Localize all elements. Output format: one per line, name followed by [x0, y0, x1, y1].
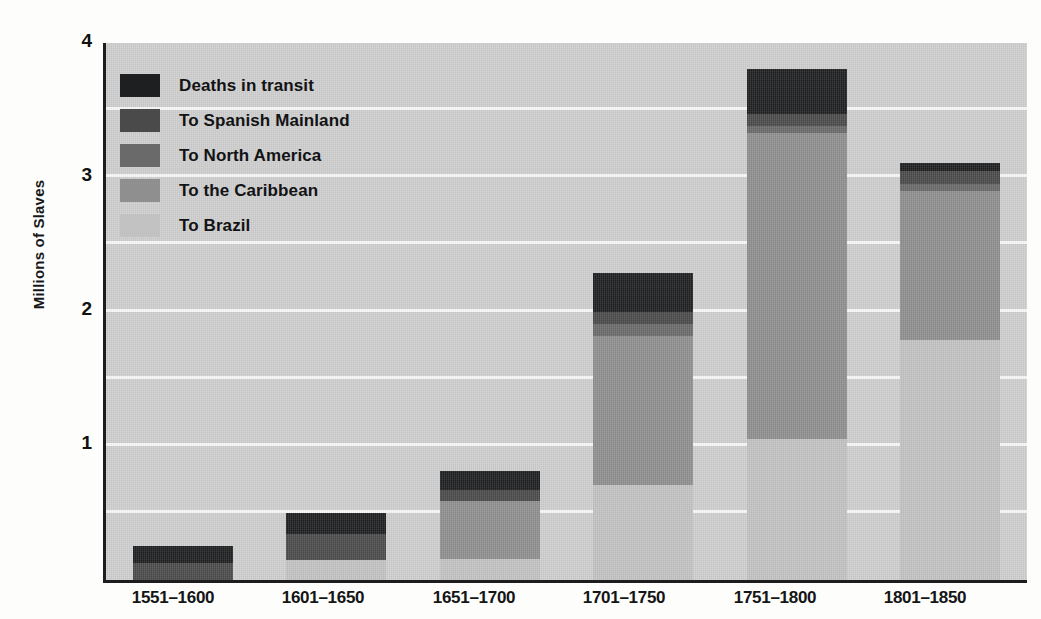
legend-swatch-icon — [120, 74, 160, 97]
x-tick-label-4: 1751–1800 — [700, 588, 850, 608]
legend-swatch-icon — [120, 214, 160, 237]
legend-item-namerica[interactable]: To North America — [120, 138, 350, 173]
x-tick-label-0: 1551–1600 — [98, 588, 248, 608]
bar-segment-spanish — [593, 312, 693, 324]
bar-segment-deaths — [593, 273, 693, 312]
y-axis-title: Millions of Slaves — [30, 125, 47, 365]
legend-item-spanish[interactable]: To Spanish Mainland — [120, 103, 350, 138]
legend-swatch-icon — [120, 144, 160, 167]
gridline — [106, 309, 1027, 312]
bar-segment-deaths — [286, 513, 386, 534]
bar-1601-1650[interactable] — [286, 513, 386, 580]
bar-segment-deaths — [440, 471, 540, 490]
bar-segment-brazil — [286, 560, 386, 580]
x-tick-label-5: 1801–1850 — [850, 588, 1000, 608]
bar-1801-1850[interactable] — [900, 163, 1000, 580]
legend-item-deaths[interactable]: Deaths in transit — [120, 68, 350, 103]
bar-segment-brazil — [440, 559, 540, 580]
chart-figure: Millions of Slaves 4 3 2 1 1551–1600 160… — [0, 0, 1041, 619]
gridline — [106, 510, 1027, 513]
bar-segment-carib — [900, 191, 1000, 340]
y-tick-label-2: 2 — [52, 298, 92, 320]
bar-1651-1700[interactable] — [440, 471, 540, 580]
bar-segment-namerica — [900, 184, 1000, 191]
bar-segment-brazil — [593, 485, 693, 580]
legend-item-label: To Spanish Mainland — [179, 111, 350, 131]
legend-item-carib[interactable]: To the Caribbean — [120, 173, 350, 208]
legend-item-label: To the Caribbean — [179, 181, 318, 201]
bar-segment-spanish — [900, 171, 1000, 184]
y-tick-label-1: 1 — [52, 432, 92, 454]
bar-segment-spanish — [440, 490, 540, 501]
bar-1751-1800[interactable] — [747, 69, 847, 580]
legend-item-brazil[interactable]: To Brazil — [120, 208, 350, 243]
bar-segment-spanish — [747, 114, 847, 126]
y-tick-label-3: 3 — [52, 164, 92, 186]
chart-legend: Deaths in transitTo Spanish MainlandTo N… — [120, 68, 350, 243]
x-tick-label-2: 1651–1700 — [399, 588, 549, 608]
bar-segment-carib — [747, 133, 847, 439]
legend-item-label: To Brazil — [179, 216, 250, 236]
x-tick-label-1: 1601–1650 — [248, 588, 398, 608]
x-tick-label-3: 1701–1750 — [549, 588, 699, 608]
legend-item-label: To North America — [179, 146, 321, 166]
legend-item-label: Deaths in transit — [179, 76, 314, 96]
legend-swatch-icon — [120, 179, 160, 202]
gridline — [106, 376, 1027, 379]
y-tick-label-4: 4 — [52, 30, 92, 52]
bar-segment-brazil — [900, 340, 1000, 580]
bar-segment-deaths — [133, 546, 233, 562]
bar-segment-spanish — [133, 563, 233, 580]
bar-segment-deaths — [747, 69, 847, 115]
legend-swatch-icon — [120, 109, 160, 132]
bar-1701-1750[interactable] — [593, 273, 693, 580]
bar-1551-1600[interactable] — [133, 546, 233, 580]
bar-segment-namerica — [747, 126, 847, 133]
bar-segment-carib — [593, 336, 693, 485]
gridline — [106, 443, 1027, 446]
bar-segment-carib — [440, 501, 540, 559]
bar-segment-namerica — [593, 324, 693, 336]
bar-segment-brazil — [747, 439, 847, 580]
bar-segment-deaths — [900, 163, 1000, 171]
bar-segment-spanish — [286, 534, 386, 560]
